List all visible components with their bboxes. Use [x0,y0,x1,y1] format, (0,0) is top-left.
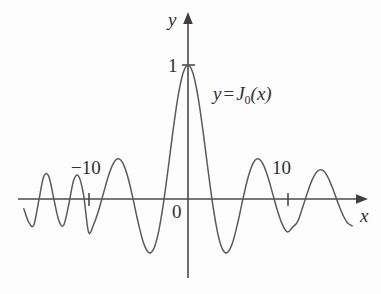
x-tick-label-positive-ten: 10 [272,158,291,177]
equation-annotation: y=J0(x) [213,84,272,106]
origin-label: 0 [172,202,182,221]
y-tick-label-one: 1 [168,56,178,75]
y-axis-label: y [168,10,176,29]
equation-function-name: J [236,83,244,104]
equation-operator: = [221,83,236,104]
x-tick-label-negative-ten: −10 [71,158,101,177]
equation-argument: (x) [251,83,272,104]
x-axis-label: x [360,206,368,225]
x-axis-arrow-icon [356,194,368,204]
plot-canvas [0,0,381,294]
y-axis-arrow-icon [183,12,193,24]
bessel-function-figure: y x 1 0 −10 10 y=J0(x) [0,0,381,294]
